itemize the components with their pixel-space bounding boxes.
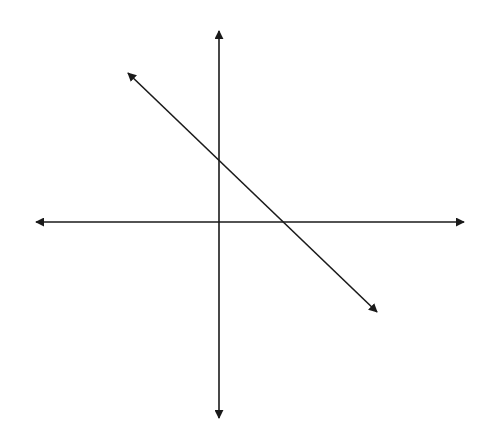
negative-slope-line (128, 73, 377, 312)
coordinate-plane (0, 0, 484, 448)
coordinate-plane-graphic (0, 0, 484, 448)
